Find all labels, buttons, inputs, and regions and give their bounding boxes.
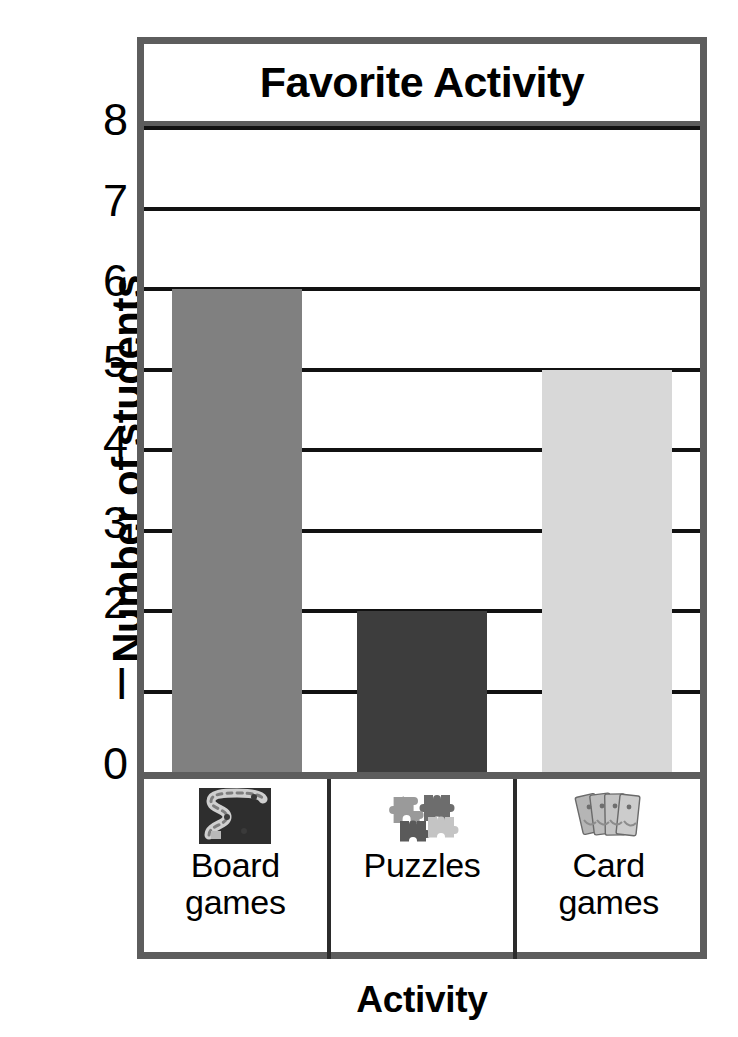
y-tick-0: 0 bbox=[74, 741, 128, 786]
bar-card-games[interactable] bbox=[542, 370, 672, 773]
category-band: Board games bbox=[144, 779, 700, 959]
bars-group bbox=[144, 128, 700, 772]
y-tick-6: 6 bbox=[74, 258, 128, 303]
bar-chart-figure: Number of students 8 7 6 5 4 3 2 I 0 Fav… bbox=[0, 0, 738, 1037]
category-label-puzzles: Puzzles bbox=[364, 847, 481, 884]
category-cell-card-games[interactable]: Card games bbox=[513, 779, 700, 959]
plot-frame: Favorite Activity bbox=[137, 37, 707, 959]
category-cell-puzzles[interactable]: Puzzles bbox=[327, 779, 514, 959]
y-tick-4: 4 bbox=[74, 419, 128, 464]
category-label-line-1: Puzzles bbox=[364, 846, 481, 884]
bar-board-games[interactable] bbox=[172, 289, 302, 772]
category-label-line-1: Board bbox=[191, 846, 280, 884]
y-tick-3: 3 bbox=[74, 500, 128, 545]
category-label-line-2: games bbox=[558, 883, 659, 921]
category-label-line-2: games bbox=[185, 883, 286, 921]
chart-title-band: Favorite Activity bbox=[144, 44, 700, 128]
category-label-board-games: Board games bbox=[185, 847, 286, 921]
bar-puzzles[interactable] bbox=[357, 611, 487, 772]
category-cell-board-games[interactable]: Board games bbox=[144, 779, 327, 959]
plot-area bbox=[144, 128, 700, 772]
puzzle-pieces-icon bbox=[384, 787, 460, 845]
y-tick-8: 8 bbox=[74, 97, 128, 142]
y-axis-tick-labels: 8 7 6 5 4 3 2 I 0 bbox=[62, 0, 128, 1037]
y-tick-2: 2 bbox=[74, 580, 128, 625]
playing-cards-icon bbox=[571, 787, 647, 845]
x-axis-title: Activity bbox=[137, 975, 707, 1025]
category-label-card-games: Card games bbox=[558, 847, 659, 921]
y-tick-5: 5 bbox=[74, 339, 128, 384]
board-game-icon bbox=[197, 787, 273, 845]
y-tick-7: 7 bbox=[74, 178, 128, 223]
chart-title: Favorite Activity bbox=[260, 58, 584, 107]
category-label-line-1: Card bbox=[572, 846, 645, 884]
axis-baseline bbox=[144, 772, 700, 779]
y-tick-1: I bbox=[74, 661, 128, 706]
